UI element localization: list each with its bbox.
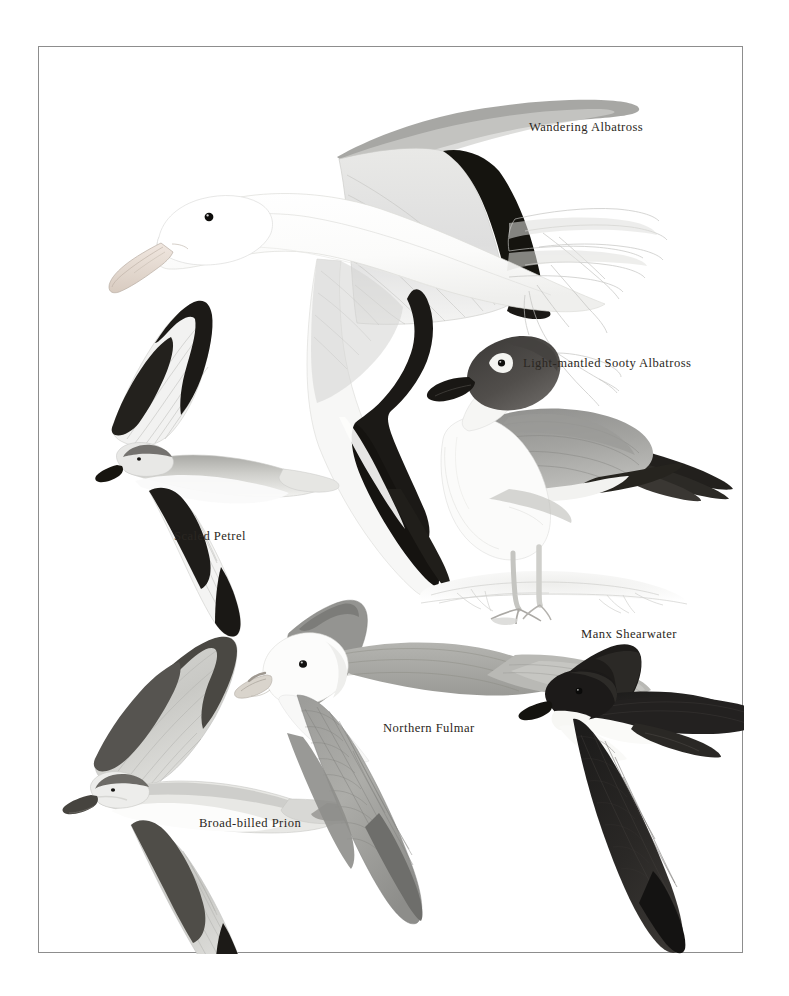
plate-artwork: [39, 47, 744, 954]
figure-manx-shearwater: [519, 644, 744, 953]
illustration-plate: Wandering Albatross Light-mantled Sooty …: [0, 0, 789, 996]
label-light-mantled-sooty-albatross: Light-mantled Sooty Albatross: [523, 356, 691, 371]
plate-border: Wandering Albatross Light-mantled Sooty …: [38, 46, 743, 953]
label-northern-fulmar: Northern Fulmar: [383, 721, 475, 736]
figure-scaled-petrel: [95, 301, 339, 637]
label-scaled-petrel: Scaled Petrel: [174, 529, 246, 544]
label-broad-billed-prion: Broad-billed Prion: [199, 816, 301, 831]
label-manx-shearwater: Manx Shearwater: [581, 627, 677, 642]
label-wandering-albatross: Wandering Albatross: [529, 120, 643, 135]
figure-light-mantled-sooty-albatross: [419, 336, 733, 625]
